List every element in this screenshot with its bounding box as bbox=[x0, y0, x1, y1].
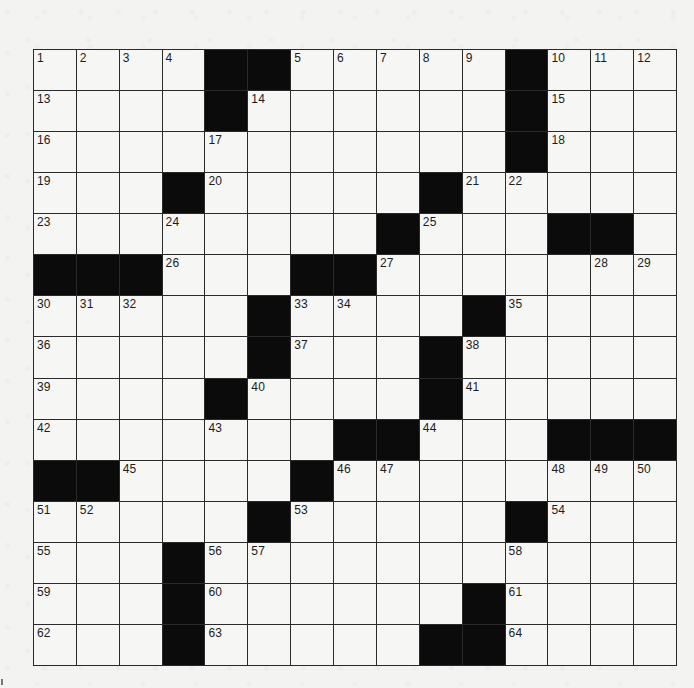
answer-cell[interactable] bbox=[548, 173, 590, 213]
answer-cell[interactable]: 48 bbox=[548, 461, 590, 501]
answer-cell[interactable] bbox=[248, 255, 290, 295]
answer-cell[interactable]: 16 bbox=[34, 132, 76, 172]
answer-cell[interactable]: 13 bbox=[34, 91, 76, 131]
answer-cell[interactable]: 56 bbox=[205, 543, 247, 583]
answer-cell[interactable] bbox=[463, 255, 505, 295]
answer-cell[interactable]: 60 bbox=[205, 584, 247, 624]
answer-cell[interactable] bbox=[506, 461, 548, 501]
answer-cell[interactable] bbox=[120, 420, 162, 460]
answer-cell[interactable] bbox=[377, 173, 419, 213]
answer-cell[interactable] bbox=[77, 173, 119, 213]
answer-cell[interactable] bbox=[420, 255, 462, 295]
answer-cell[interactable] bbox=[120, 625, 162, 665]
answer-cell[interactable] bbox=[377, 91, 419, 131]
answer-cell[interactable] bbox=[248, 173, 290, 213]
answer-cell[interactable] bbox=[420, 132, 462, 172]
answer-cell[interactable] bbox=[334, 379, 376, 419]
answer-cell[interactable] bbox=[463, 543, 505, 583]
answer-cell[interactable] bbox=[377, 132, 419, 172]
answer-cell[interactable] bbox=[634, 214, 676, 254]
answer-cell[interactable] bbox=[291, 379, 333, 419]
answer-cell[interactable] bbox=[506, 420, 548, 460]
answer-cell[interactable]: 28 bbox=[591, 255, 633, 295]
answer-cell[interactable]: 59 bbox=[34, 584, 76, 624]
answer-cell[interactable] bbox=[248, 461, 290, 501]
answer-cell[interactable] bbox=[591, 379, 633, 419]
answer-cell[interactable]: 10 bbox=[548, 50, 590, 90]
answer-cell[interactable]: 64 bbox=[506, 625, 548, 665]
answer-cell[interactable] bbox=[291, 584, 333, 624]
answer-cell[interactable] bbox=[205, 502, 247, 542]
answer-cell[interactable]: 20 bbox=[205, 173, 247, 213]
answer-cell[interactable]: 45 bbox=[120, 461, 162, 501]
answer-cell[interactable] bbox=[334, 502, 376, 542]
answer-cell[interactable] bbox=[120, 91, 162, 131]
answer-cell[interactable] bbox=[163, 91, 205, 131]
answer-cell[interactable]: 7 bbox=[377, 50, 419, 90]
answer-cell[interactable] bbox=[248, 584, 290, 624]
answer-cell[interactable]: 1 bbox=[34, 50, 76, 90]
answer-cell[interactable]: 3 bbox=[120, 50, 162, 90]
answer-cell[interactable] bbox=[291, 625, 333, 665]
answer-cell[interactable] bbox=[120, 379, 162, 419]
answer-cell[interactable]: 19 bbox=[34, 173, 76, 213]
answer-cell[interactable]: 18 bbox=[548, 132, 590, 172]
answer-cell[interactable] bbox=[377, 584, 419, 624]
answer-cell[interactable]: 35 bbox=[506, 296, 548, 336]
answer-cell[interactable] bbox=[77, 132, 119, 172]
answer-cell[interactable] bbox=[548, 337, 590, 377]
answer-cell[interactable] bbox=[291, 420, 333, 460]
answer-cell[interactable] bbox=[163, 461, 205, 501]
answer-cell[interactable]: 29 bbox=[634, 255, 676, 295]
answer-cell[interactable]: 9 bbox=[463, 50, 505, 90]
answer-cell[interactable] bbox=[634, 379, 676, 419]
answer-cell[interactable] bbox=[377, 379, 419, 419]
answer-cell[interactable] bbox=[420, 543, 462, 583]
answer-cell[interactable] bbox=[77, 214, 119, 254]
answer-cell[interactable] bbox=[291, 214, 333, 254]
answer-cell[interactable]: 11 bbox=[591, 50, 633, 90]
answer-cell[interactable] bbox=[163, 379, 205, 419]
answer-cell[interactable] bbox=[420, 502, 462, 542]
answer-cell[interactable] bbox=[77, 584, 119, 624]
answer-cell[interactable]: 12 bbox=[634, 50, 676, 90]
answer-cell[interactable]: 23 bbox=[34, 214, 76, 254]
answer-cell[interactable] bbox=[205, 337, 247, 377]
answer-cell[interactable]: 46 bbox=[334, 461, 376, 501]
answer-cell[interactable] bbox=[591, 625, 633, 665]
answer-cell[interactable]: 37 bbox=[291, 337, 333, 377]
answer-cell[interactable] bbox=[163, 132, 205, 172]
answer-cell[interactable] bbox=[163, 502, 205, 542]
answer-cell[interactable] bbox=[334, 337, 376, 377]
answer-cell[interactable] bbox=[634, 296, 676, 336]
answer-cell[interactable]: 52 bbox=[77, 502, 119, 542]
answer-cell[interactable] bbox=[120, 173, 162, 213]
answer-cell[interactable]: 57 bbox=[248, 543, 290, 583]
answer-cell[interactable] bbox=[334, 214, 376, 254]
answer-cell[interactable]: 55 bbox=[34, 543, 76, 583]
answer-cell[interactable]: 2 bbox=[77, 50, 119, 90]
answer-cell[interactable] bbox=[591, 296, 633, 336]
answer-cell[interactable] bbox=[120, 584, 162, 624]
answer-cell[interactable] bbox=[334, 584, 376, 624]
answer-cell[interactable]: 27 bbox=[377, 255, 419, 295]
answer-cell[interactable] bbox=[548, 379, 590, 419]
answer-cell[interactable] bbox=[334, 91, 376, 131]
answer-cell[interactable]: 21 bbox=[463, 173, 505, 213]
answer-cell[interactable]: 4 bbox=[163, 50, 205, 90]
answer-cell[interactable] bbox=[548, 625, 590, 665]
answer-cell[interactable]: 61 bbox=[506, 584, 548, 624]
answer-cell[interactable] bbox=[463, 461, 505, 501]
answer-cell[interactable] bbox=[634, 502, 676, 542]
answer-cell[interactable] bbox=[548, 255, 590, 295]
answer-cell[interactable] bbox=[420, 296, 462, 336]
answer-cell[interactable] bbox=[591, 91, 633, 131]
answer-cell[interactable] bbox=[120, 132, 162, 172]
answer-cell[interactable] bbox=[120, 337, 162, 377]
answer-cell[interactable] bbox=[248, 132, 290, 172]
answer-cell[interactable]: 62 bbox=[34, 625, 76, 665]
answer-cell[interactable] bbox=[77, 420, 119, 460]
answer-cell[interactable] bbox=[334, 543, 376, 583]
answer-cell[interactable] bbox=[334, 625, 376, 665]
answer-cell[interactable] bbox=[334, 173, 376, 213]
